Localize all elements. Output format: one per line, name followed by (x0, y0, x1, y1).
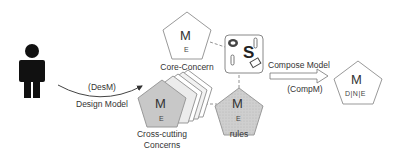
compose-arrow (270, 69, 328, 83)
service-letter: S (243, 43, 254, 63)
core-concern-label: Core-Concern (155, 62, 219, 72)
rules-label: rules (219, 129, 259, 139)
core-concern-e: E (184, 46, 189, 53)
person-icon (19, 44, 45, 98)
cross-cutting-m: M (155, 96, 166, 111)
design-model-label: Design Model (70, 99, 134, 109)
cross-cutting-label-2: Concerns (130, 140, 194, 150)
cross-cutting-label-1: Cross-cutting (130, 129, 194, 139)
desm-label: (DesM) (82, 82, 122, 92)
rules-m: M (232, 96, 243, 111)
compose-model-label: Compose Model (268, 60, 340, 70)
diagram-canvas (0, 0, 405, 154)
compm-label: (CompM) (283, 84, 327, 94)
rules-e: E (236, 115, 241, 122)
cross-cutting-e: E (159, 115, 164, 122)
core-concern-m: M (180, 28, 191, 43)
composed-m: M (351, 72, 362, 87)
composed-dne: D|N|E (345, 90, 366, 97)
